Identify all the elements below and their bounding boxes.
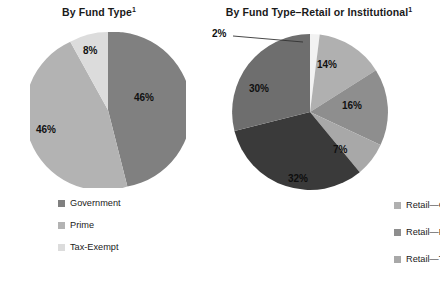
pie-chart-right: 14% 16% 7% 32% 30% bbox=[232, 34, 388, 190]
legend-swatch-icon bbox=[394, 256, 401, 263]
legend-label: Government bbox=[70, 198, 121, 209]
legend-label: Retail—Tax-Exempt bbox=[406, 254, 440, 265]
chart-title-left-text: By Fund Type bbox=[62, 6, 132, 18]
chart-title-right-footnote: 1 bbox=[408, 6, 412, 13]
chart-panel-right: By Fund Type–Retail or Institutional1 14… bbox=[198, 0, 440, 292]
legend-item-retail-government[interactable]: Retail—Government bbox=[394, 200, 440, 211]
pie-right-label-institutional-tax-exempt: 2% bbox=[212, 28, 226, 39]
legend-item-tax-exempt[interactable]: Tax-Exempt bbox=[58, 242, 188, 253]
legend-right-retail: Retail—Government Retail—Prime Retail—Ta… bbox=[394, 200, 440, 281]
chart-title-left-footnote: 1 bbox=[132, 6, 136, 13]
legend-swatch-icon bbox=[58, 244, 65, 251]
legend-label: Retail—Prime bbox=[406, 227, 440, 238]
legend-item-retail-tax-exempt[interactable]: Retail—Tax-Exempt bbox=[394, 254, 440, 265]
legend-label: Prime bbox=[70, 220, 94, 231]
pie-left-svg bbox=[30, 32, 186, 188]
chart-panel-left: By Fund Type1 46% 46% 8% Government Prim… bbox=[0, 0, 198, 292]
pie-chart-left: 46% 46% 8% bbox=[30, 32, 186, 188]
legend-left: Government Prime Tax-Exempt bbox=[58, 198, 188, 264]
legend-swatch-icon bbox=[394, 229, 401, 236]
chart-title-right-text: By Fund Type–Retail or Institutional bbox=[226, 6, 409, 18]
chart-title-right: By Fund Type–Retail or Institutional1 bbox=[198, 6, 440, 18]
legend-swatch-icon bbox=[58, 222, 65, 229]
legend-swatch-icon bbox=[394, 202, 401, 209]
legend-label: Tax-Exempt bbox=[70, 242, 119, 253]
pie-right-svg bbox=[232, 34, 388, 190]
legend-swatch-icon bbox=[58, 200, 65, 207]
legend-item-government[interactable]: Government bbox=[58, 198, 188, 209]
legend-item-prime[interactable]: Prime bbox=[58, 220, 188, 231]
chart-title-left: By Fund Type1 bbox=[0, 6, 198, 18]
legend-item-retail-prime[interactable]: Retail—Prime bbox=[394, 227, 440, 238]
legend-label: Retail—Government bbox=[406, 200, 440, 211]
